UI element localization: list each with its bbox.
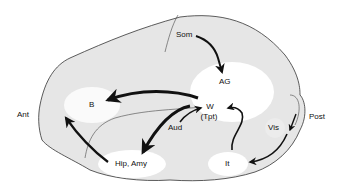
- label-vis: Vis: [268, 124, 279, 132]
- label-ag: AG: [219, 78, 231, 86]
- label-tpt: (Tpt): [196, 113, 222, 121]
- label-posterior: Post: [309, 113, 325, 121]
- brain-diagram: [0, 0, 342, 192]
- label-aud: Aud: [168, 124, 182, 132]
- label-anterior: Ant: [17, 111, 29, 119]
- label-som: Som: [176, 31, 192, 39]
- label-w: W: [202, 103, 218, 111]
- label-b: B: [89, 101, 94, 109]
- label-hip-amy: Hip, Amy: [115, 160, 147, 168]
- label-it: It: [225, 160, 229, 168]
